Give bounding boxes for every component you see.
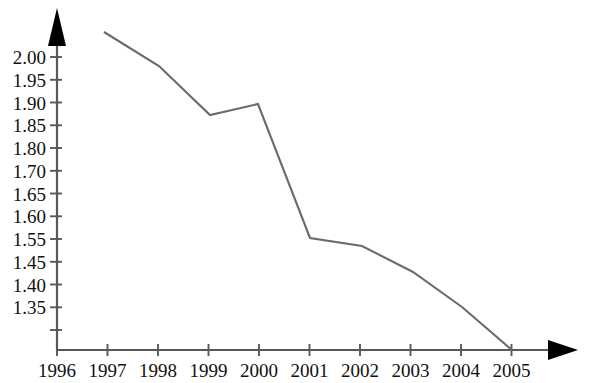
x-tick-label: 1998 — [139, 360, 177, 381]
x-axis-arrow-icon — [548, 340, 578, 360]
y-tick-label: 1.90 — [13, 93, 46, 114]
data-series-line — [104, 32, 512, 350]
x-tick-label: 1997 — [89, 360, 127, 381]
x-tick-label: 1996 — [38, 360, 76, 381]
y-axis-labels: 2.00 1.95 1.90 1.85 1.80 1.70 1.65 1.60 … — [13, 47, 46, 318]
y-tick-label: 1.85 — [13, 115, 46, 136]
x-tick-label: 2003 — [392, 360, 430, 381]
y-tick-label: 2.00 — [13, 47, 46, 68]
y-tick-label: 1.65 — [13, 184, 46, 205]
x-tick-label: 2005 — [493, 360, 531, 381]
x-tick-label: 1999 — [190, 360, 228, 381]
y-tick-label: 1.45 — [13, 252, 46, 273]
y-tick-label: 1.95 — [13, 70, 46, 91]
chart-canvas: 2.00 1.95 1.90 1.85 1.80 1.70 1.65 1.60 … — [0, 0, 611, 383]
y-tick-label: 1.80 — [13, 138, 46, 159]
y-tick-label: 1.60 — [13, 206, 46, 227]
x-axis-labels: 1996 1997 1998 1999 2000 2001 2002 2003 … — [38, 360, 531, 381]
x-tick-label: 2001 — [291, 360, 329, 381]
x-tick-label: 2000 — [240, 360, 278, 381]
y-tick-label: 1.35 — [13, 297, 46, 318]
y-tick-label: 1.40 — [13, 275, 46, 296]
y-tick-label: 1.55 — [13, 229, 46, 250]
x-tick-label: 2002 — [341, 360, 379, 381]
y-tick-label: 1.70 — [13, 161, 46, 182]
x-tick-label: 2004 — [442, 360, 481, 381]
y-axis-arrow-icon — [48, 8, 66, 46]
line-chart: 2.00 1.95 1.90 1.85 1.80 1.70 1.65 1.60 … — [0, 0, 611, 383]
